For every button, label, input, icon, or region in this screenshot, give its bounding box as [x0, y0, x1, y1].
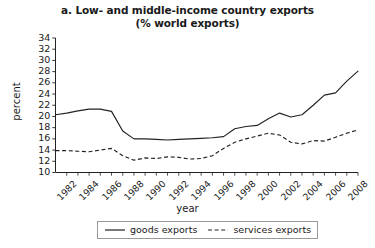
y-tick-label: 26 — [24, 77, 50, 87]
chart-legend: goods exports services exports — [97, 221, 318, 239]
series-layer — [56, 71, 359, 160]
legend-entry-services-exports: services exports — [207, 224, 311, 235]
y-tick-label: 18 — [24, 122, 50, 132]
legend-swatch-solid-icon — [104, 226, 126, 234]
legend-swatch-dashed-icon — [207, 226, 229, 234]
y-tick-label: 12 — [24, 156, 50, 166]
series-line-goods-exports — [56, 71, 359, 140]
y-axis-title: percent — [11, 72, 22, 132]
chart-figure: a. Low- and middle-income country export… — [0, 0, 375, 248]
y-tick-label: 10 — [24, 167, 50, 177]
y-tick-label: 28 — [24, 66, 50, 76]
y-tick-label: 30 — [24, 55, 50, 65]
x-axis-title: year — [0, 203, 375, 214]
legend-entry-goods-exports: goods exports — [104, 224, 197, 235]
legend-label-goods-exports: goods exports — [130, 224, 197, 235]
y-tick-label: 24 — [24, 89, 50, 99]
y-tick-label: 22 — [24, 100, 50, 110]
y-tick-label: 32 — [24, 44, 50, 54]
y-tick-label: 14 — [24, 145, 50, 155]
y-tick-label: 16 — [24, 133, 50, 143]
y-tick-label: 20 — [24, 111, 50, 121]
series-line-services-exports — [56, 130, 359, 160]
y-tick-label: 34 — [24, 33, 50, 43]
legend-label-services-exports: services exports — [233, 224, 311, 235]
